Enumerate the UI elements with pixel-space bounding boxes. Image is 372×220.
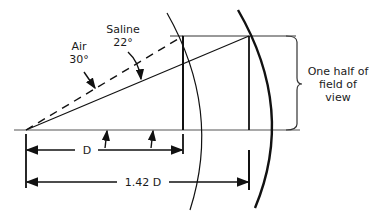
field-label-line3: view (325, 91, 350, 104)
refraction-diagram: Air 30° Saline 22° One half of field of … (0, 0, 372, 220)
air-ray-dashed (26, 36, 183, 130)
outer-arc (238, 10, 272, 208)
saline-label: Saline (106, 23, 140, 36)
d142-label: 1.42 D (125, 176, 161, 189)
field-label-line1: One half of (308, 65, 370, 78)
up-arrow-2 (151, 131, 153, 148)
air-angle-arrow (84, 72, 95, 88)
air-angle-label: 30° (69, 53, 89, 66)
field-label-line2: field of (319, 78, 358, 91)
d-label: D (83, 144, 91, 157)
air-label: Air (71, 40, 87, 53)
saline-angle-label: 22° (113, 36, 133, 49)
field-bracket (286, 36, 302, 130)
saline-ray (26, 36, 249, 130)
up-arrow-1 (105, 131, 107, 148)
